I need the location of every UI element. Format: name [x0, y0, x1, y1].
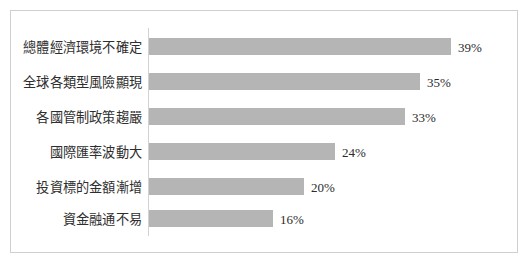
bar-row[interactable]: 總體經濟環境不確定 39% — [11, 38, 517, 55]
bar-value-label: 35% — [420, 73, 451, 90]
bar-fill[interactable] — [149, 108, 405, 125]
bar-value-label: 33% — [405, 108, 436, 125]
bar-value-label: 20% — [304, 178, 335, 195]
bar-row[interactable]: 投資標的金額漸增 20% — [11, 178, 517, 195]
bar-fill[interactable] — [149, 178, 304, 195]
bar-fill[interactable] — [149, 143, 335, 160]
bar-category-label: 國際匯率波動大 — [11, 143, 142, 160]
plot-area: 總體經濟環境不確定 39% 全球各類型風險顯現 35% 各國管制政策趨嚴 33%… — [11, 11, 517, 252]
bar-category-label: 全球各類型風險顯現 — [11, 73, 142, 90]
bar-category-label: 各國管制政策趨嚴 — [11, 108, 142, 125]
bar-value-label: 39% — [451, 38, 482, 55]
bar-category-label: 資金融通不易 — [11, 210, 142, 227]
category-axis-line — [148, 28, 149, 236]
bar-value-label: 24% — [335, 143, 366, 160]
bar-row[interactable]: 各國管制政策趨嚴 33% — [11, 108, 517, 125]
bar-fill[interactable] — [149, 210, 273, 227]
bar-value-label: 16% — [273, 210, 304, 227]
bar-category-label: 總體經濟環境不確定 — [11, 38, 142, 55]
chart-frame: 總體經濟環境不確定 39% 全球各類型風險顯現 35% 各國管制政策趨嚴 33%… — [10, 10, 518, 253]
bar-row[interactable]: 國際匯率波動大 24% — [11, 143, 517, 160]
bar-category-label: 投資標的金額漸增 — [11, 178, 142, 195]
bar-fill[interactable] — [149, 73, 420, 90]
bar-fill[interactable] — [149, 38, 451, 55]
bar-row[interactable]: 全球各類型風險顯現 35% — [11, 73, 517, 90]
bar-row[interactable]: 資金融通不易 16% — [11, 210, 517, 227]
